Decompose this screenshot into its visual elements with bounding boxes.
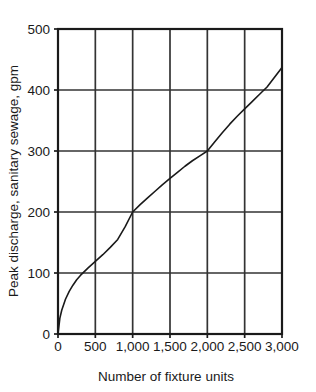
x-tick-label: 3,000 [265,339,299,354]
y-tick-label: 100 [27,266,50,281]
chart-figure: 05001,0001,5002,0002,5003,000 0100200300… [0,0,316,392]
plot-area [58,29,282,334]
y-axis-title: Peak discharge, sanitary sewage, gpm [6,65,21,297]
x-axis-title: Number of fixture units [98,369,234,384]
y-tick-label: 300 [27,144,50,159]
peak-discharge-line-chart: 05001,0001,5002,0002,5003,000 0100200300… [0,0,316,392]
x-tick-label: 1,500 [153,339,187,354]
x-tick-label: 1,000 [116,339,150,354]
y-tick-label: 0 [42,327,50,342]
x-tick-label: 0 [54,339,62,354]
x-tick-label: 2,000 [190,339,224,354]
x-tick-label: 500 [84,339,107,354]
y-tick-label: 400 [27,83,50,98]
y-tick-label: 200 [27,205,50,220]
y-tick-label: 500 [27,22,50,37]
x-tick-label: 2,500 [228,339,262,354]
